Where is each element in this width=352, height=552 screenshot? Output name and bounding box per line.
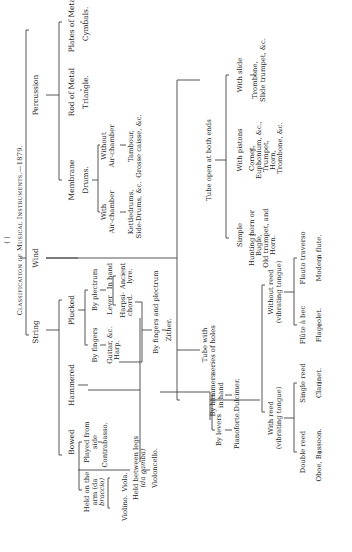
node-without-reed-l2: (vibrating tongue) xyxy=(276,261,284,324)
instrument-triangle: Triangle. xyxy=(82,75,90,109)
instrument-violoncello: Violoncello. xyxy=(152,448,160,488)
node-tube-open-both-ends: Tube open at both ends xyxy=(206,119,214,200)
node-double-reed: Double reed xyxy=(300,431,308,473)
node-flauto-traverso: Flauto traverso xyxy=(300,231,308,284)
page-marker: ( ) xyxy=(4,236,12,243)
node-by-levers: By levers xyxy=(216,414,224,446)
node-tube-series-holes-l2: series of holes xyxy=(210,325,218,375)
node-plucked: Plucked xyxy=(68,295,76,325)
node-held-on-arm-l3: braccio) xyxy=(99,478,107,506)
instrument-oboe-bassoon: Oboe, Bassoon. xyxy=(316,428,324,481)
node-by-hammers-l2: in hand xyxy=(218,382,226,408)
instrument-violino: Violino. xyxy=(122,495,130,521)
node-with-pistons: With pistons xyxy=(237,128,245,171)
node-by-fingers: By fingers xyxy=(92,327,100,362)
instrument-horn: Horn. xyxy=(270,235,278,255)
node-with-air-chamber-l2: Air-chamber xyxy=(109,191,117,234)
node-with-reed-l2: (vibrating tongue) xyxy=(276,387,284,450)
node-string: String xyxy=(32,320,40,343)
node-by-plectrum: By plectrum xyxy=(92,269,100,311)
node-bowed: Bowed xyxy=(68,429,76,454)
node-single-reed: Single reed xyxy=(300,363,308,403)
instrument-cymbals: Cymbals. xyxy=(82,7,90,41)
instrument-slide-trumpet: Slide trumpet, &c. xyxy=(260,38,268,102)
node-hammered: Hammered xyxy=(68,364,76,406)
node-wind: Wind xyxy=(32,248,40,267)
node-lever: Lever xyxy=(107,295,115,315)
node-plates-of-metal: Plates of Metal xyxy=(68,0,76,52)
instrument-harp: Harp. xyxy=(114,340,122,360)
instrument-drums: Drums. xyxy=(82,166,90,193)
instrument-viola: Viola. xyxy=(122,472,130,491)
node-by-fingers-and-plectrum: By fingers and plectrum xyxy=(153,270,161,353)
diagram-title: Classification of Musical Instruments.—1… xyxy=(16,145,24,315)
instrument-clarinet: Clarinet. xyxy=(316,368,324,398)
node-simple: Simple xyxy=(237,223,245,247)
instrument-harpsichord-l2: chord. xyxy=(127,294,135,316)
node-rod-of-metal: Rod of Metal xyxy=(68,68,76,116)
node-flute-a-bec: Flûte à bec xyxy=(300,306,308,345)
instrument-modern-flute: Modern flute. xyxy=(316,234,324,281)
instrument-ancient-lyre-l2: lyre. xyxy=(127,268,135,283)
instrument-flageolet: Flageolet. xyxy=(316,308,324,343)
instrument-contrabasso: Contrabasso. xyxy=(102,422,110,467)
instrument-trombone-pistons: Trombone, &c. xyxy=(277,122,285,174)
node-in-hand: In hand xyxy=(107,263,115,289)
node-percussion: Percussion xyxy=(32,75,40,116)
node-with-slide: With slide xyxy=(237,58,245,93)
instrument-pianoforte: Pianoforte. xyxy=(234,411,242,449)
node-held-between-legs-l2: (da gamba) xyxy=(140,448,148,487)
instrument-zither: Zither. xyxy=(166,319,174,342)
instrument-side-drums: Side-Drums, &c. xyxy=(136,182,144,239)
instrument-dulcimer: Dulcimer. xyxy=(234,378,242,411)
node-membrane: Membrane xyxy=(68,160,76,201)
node-without-air-chamber-l2: Air-chamber xyxy=(109,125,117,168)
instrument-grosse-caisse: Grosse caisse, &c. xyxy=(136,114,144,177)
node-played-from-side-l2: side xyxy=(92,435,100,449)
root-bracket xyxy=(26,30,29,335)
